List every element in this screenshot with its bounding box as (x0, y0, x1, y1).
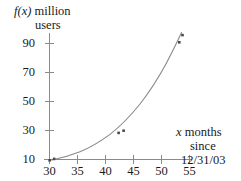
x-axis-title-line-2: since (190, 140, 216, 154)
data-point-markers (48, 34, 184, 162)
x-tick-label-55: 55 (178, 165, 202, 178)
y-tick-label-10: 10 (11, 153, 35, 166)
x-axis-title-line-1: x months (176, 126, 222, 140)
x-tick-label-45: 45 (122, 165, 146, 178)
chart-figure: f(x) million users x months since 12/31/… (0, 0, 241, 181)
x-tick-label-30: 30 (38, 165, 62, 178)
x-tick-label-50: 50 (150, 165, 174, 178)
y-axis-title-line-2: users (35, 19, 61, 33)
exponential-curve (50, 33, 182, 161)
y-tick-label-70: 70 (11, 66, 35, 79)
x-tick-label-40: 40 (94, 165, 118, 178)
y-axis-title-line-1: f(x) million (14, 5, 71, 19)
y-tick-label-50: 50 (11, 95, 35, 108)
x-tick-label-35: 35 (66, 165, 90, 178)
y-tick-label-90: 90 (11, 37, 35, 50)
y-axis-title-fx: f(x) (14, 4, 31, 18)
y-tick-label-30: 30 (11, 124, 35, 137)
y-axis-title-million: million (31, 4, 70, 18)
x-axis-title-months: months (182, 125, 222, 139)
